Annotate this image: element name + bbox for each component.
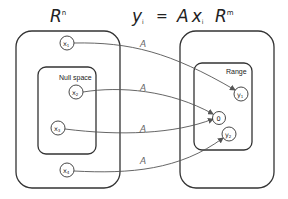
mapping-label: A xyxy=(139,83,146,93)
node-zero: 0 xyxy=(213,112,226,125)
node-x3: x3 xyxy=(51,121,65,135)
mapping-label: A xyxy=(139,156,146,166)
equation-equals: = xyxy=(156,8,168,24)
codomain-space-title: Rm xyxy=(215,6,234,26)
node-x2: x2 xyxy=(69,85,83,99)
node-y2: y2 xyxy=(222,127,236,141)
null-space-label: Null space xyxy=(59,74,92,82)
linear-map-diagram: Rn yi = Axi Rm Null space Range A A A A … xyxy=(0,0,288,199)
node-x1: x1 xyxy=(60,36,74,50)
svg-text:0: 0 xyxy=(217,115,221,123)
mapping-arrow-x3-0 xyxy=(65,119,213,133)
mapping-arrow-x1-y1 xyxy=(74,43,235,90)
equation-rhs: Axi xyxy=(176,6,204,26)
node-y1: y1 xyxy=(234,87,248,101)
mapping-label: A xyxy=(139,124,146,134)
mapping-label: A xyxy=(139,39,146,49)
domain-space-title: Rn xyxy=(50,6,66,26)
equation-lhs: yi xyxy=(131,6,144,26)
range-label: Range xyxy=(226,68,247,76)
node-x4: x4 xyxy=(60,163,74,177)
